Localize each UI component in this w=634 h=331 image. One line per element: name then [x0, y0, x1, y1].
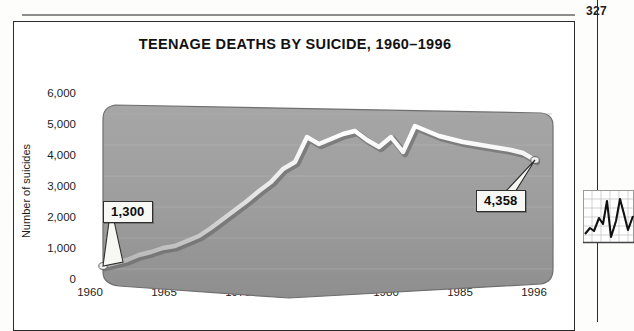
figure-title: TEENAGE DEATHS BY SUICIDE, 1960–1996 [14, 36, 576, 52]
y-tick-label: 1,000 [24, 242, 76, 254]
page-header-rule [22, 14, 575, 16]
callout-start-value: 1,300 [103, 201, 153, 223]
figure-frame: TEENAGE DEATHS BY SUICIDE, 1960–1996 Num… [13, 21, 575, 331]
adjacent-page-rule [597, 0, 598, 322]
y-tick-label: 5,000 [24, 118, 76, 130]
callout-end-value: 4,358 [476, 190, 526, 212]
y-tick-label: 6,000 [24, 87, 76, 99]
adjacent-chart-svg [583, 190, 634, 250]
y-tick-label: 0 [24, 273, 76, 285]
y-tick-label: 3,000 [24, 180, 76, 192]
y-tick-label: 2,000 [24, 211, 76, 223]
adjacent-clipped-chart [583, 190, 634, 250]
y-tick-label: 4,000 [24, 149, 76, 161]
